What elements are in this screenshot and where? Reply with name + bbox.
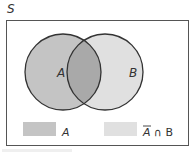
legend-label-intersection-b: ∩ B <box>151 126 174 139</box>
legend-label-not-a-and-b: A ∩ B <box>142 126 173 139</box>
legend-swatch-not-a-and-b <box>104 122 137 136</box>
legend-label-a: A <box>61 126 70 139</box>
venn-diagram: A B A A ∩ B <box>0 0 196 155</box>
legend-label-a-bar: A <box>142 126 151 139</box>
cropped-caption <box>2 149 72 152</box>
set-b-label: B <box>129 66 137 80</box>
set-a-label: A <box>56 66 65 80</box>
legend-swatch-a <box>23 122 56 136</box>
